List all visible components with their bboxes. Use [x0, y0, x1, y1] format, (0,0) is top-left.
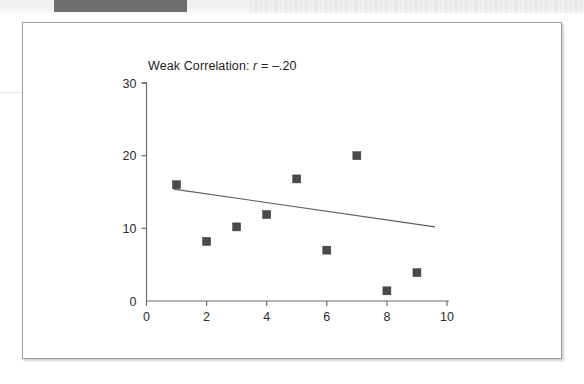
chart-title: Weak Correlation: r = –.20 [148, 59, 297, 73]
chart-title-stat-symbol: r [253, 59, 257, 73]
scan-band-noise [250, 0, 584, 13]
header-tab-block [54, 0, 187, 12]
page-root: Weak Correlation: r = –.20 0102030024681… [0, 0, 584, 384]
chart-title-prefix: Weak Correlation: [148, 59, 250, 73]
chart-title-stat-value: = –.20 [261, 59, 297, 73]
